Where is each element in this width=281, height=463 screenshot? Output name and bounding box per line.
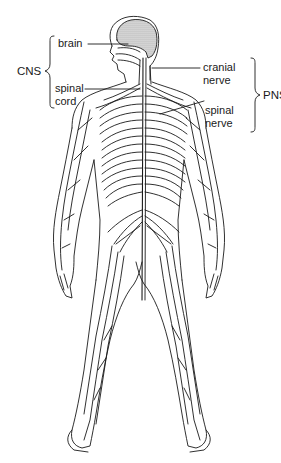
spinal-nerve-label-line1: spinal (205, 104, 234, 117)
pns-brace (251, 58, 260, 132)
spinal-cord-label-line2: cord (55, 95, 76, 108)
brain-label: brain (58, 37, 82, 50)
spinal-nerve-leader (160, 101, 204, 114)
face-profile (110, 46, 126, 82)
spinal-cord (142, 58, 143, 300)
cranial-nerve-label-line2: nerve (203, 74, 231, 87)
spinal-nerve-label-line2: nerve (205, 117, 233, 130)
cns-brace (45, 36, 54, 108)
nervous-system-figure (0, 0, 281, 463)
cranial-nerve-label-line1: cranial (203, 61, 235, 74)
cns-label: CNS (17, 65, 41, 78)
spinal-cord-label-line1: spinal (55, 82, 84, 95)
brain (117, 20, 157, 59)
pns-label: PNS (263, 89, 281, 102)
